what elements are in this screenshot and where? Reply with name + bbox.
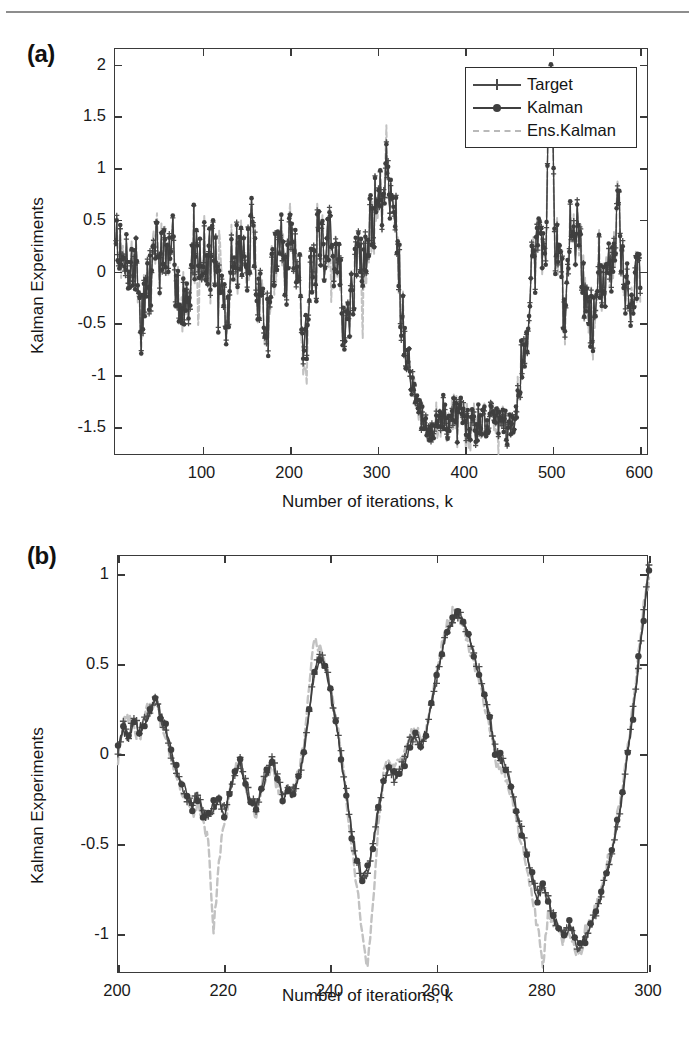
kalman-marker xyxy=(468,438,473,443)
kalman-marker xyxy=(317,657,323,663)
kalman-marker xyxy=(184,281,189,286)
kalman-marker xyxy=(535,226,540,231)
kalman-marker xyxy=(298,294,303,299)
kalman-marker xyxy=(524,852,530,858)
kalman-marker xyxy=(285,788,291,794)
kalman-marker xyxy=(478,413,483,418)
kalman-marker xyxy=(194,228,199,233)
page-top-rule xyxy=(6,11,689,13)
x-tick-top xyxy=(203,49,205,56)
x-tick-label: 500 xyxy=(538,463,566,482)
kalman-marker xyxy=(508,783,514,789)
kalman-marker xyxy=(559,275,564,280)
kalman-marker xyxy=(121,256,126,261)
kalman-marker xyxy=(543,263,548,268)
kalman-marker xyxy=(191,265,196,270)
kalman-marker xyxy=(200,814,206,820)
kalman-marker xyxy=(239,226,244,231)
kalman-marker xyxy=(217,268,222,273)
kalman-marker xyxy=(407,744,413,750)
kalman-marker xyxy=(144,294,149,299)
target-marker xyxy=(115,562,653,953)
kalman-marker xyxy=(407,346,412,351)
kalman-marker xyxy=(375,804,381,810)
kalman-marker xyxy=(564,303,569,308)
kalman-marker xyxy=(286,266,291,271)
kalman-marker xyxy=(554,253,559,258)
kalman-marker xyxy=(179,781,185,787)
kalman-marker xyxy=(340,343,345,348)
y-tick-label: 2 xyxy=(58,54,106,73)
kalman-marker xyxy=(321,242,326,247)
kalman-marker xyxy=(194,798,200,804)
kalman-marker xyxy=(533,290,538,295)
kalman-marker xyxy=(598,296,603,301)
kalman-marker xyxy=(377,203,382,208)
kalman-marker xyxy=(296,279,301,284)
kalman-marker xyxy=(618,234,623,239)
kalman-marker xyxy=(509,422,514,427)
kalman-marker xyxy=(227,325,232,330)
kalman-marker xyxy=(244,265,249,270)
kalman-marker xyxy=(117,266,122,271)
kalman-marker xyxy=(529,244,534,249)
kalman-marker xyxy=(275,267,280,272)
kalman-marker xyxy=(328,214,333,219)
kalman-marker xyxy=(213,283,218,288)
kalman-marker xyxy=(314,299,319,304)
kalman-marker xyxy=(465,414,470,419)
y-tick xyxy=(118,844,125,846)
kalman-marker xyxy=(345,317,350,322)
kalman-marker xyxy=(215,264,220,269)
kalman-marker xyxy=(128,260,133,265)
kalman-marker xyxy=(157,715,163,721)
kalman-marker xyxy=(596,270,601,275)
kalman-marker xyxy=(388,216,393,221)
y-tick-label: -1 xyxy=(58,365,106,384)
y-tick-right xyxy=(640,116,647,118)
kalman-marker xyxy=(283,293,288,298)
kalman-marker xyxy=(542,245,547,250)
kalman-marker xyxy=(188,303,193,308)
y-tick-label: -0.5 xyxy=(58,313,106,332)
kalman-marker xyxy=(189,808,195,814)
kalman-marker xyxy=(506,425,511,430)
kalman-marker xyxy=(412,730,418,736)
y-tick xyxy=(115,65,122,67)
kalman-marker xyxy=(451,396,456,401)
kalman-marker xyxy=(376,188,381,193)
kalman-marker xyxy=(216,795,222,801)
kalman-marker xyxy=(534,235,539,240)
y-tick-right xyxy=(640,220,647,222)
kalman-marker xyxy=(620,244,625,249)
kalman-marker xyxy=(625,261,630,266)
kalman-marker xyxy=(527,314,532,319)
kalman-marker xyxy=(304,313,309,318)
kalman-marker xyxy=(146,285,151,290)
kalman-marker xyxy=(503,409,508,414)
kalman-marker xyxy=(626,280,631,285)
kalman-marker xyxy=(353,236,358,241)
kalman-marker xyxy=(332,284,337,289)
kalman-marker xyxy=(416,406,421,411)
kalman-marker xyxy=(590,340,595,345)
kalman-marker xyxy=(295,265,300,270)
ens-kalman-series xyxy=(118,578,649,968)
kalman-marker xyxy=(556,925,562,931)
kalman-marker xyxy=(162,228,167,233)
kalman-marker xyxy=(544,220,549,225)
kalman-marker xyxy=(595,289,600,294)
kalman-marker xyxy=(205,253,210,258)
kalman-marker xyxy=(224,342,229,347)
kalman-marker xyxy=(485,418,490,423)
kalman-marker xyxy=(402,763,408,769)
kalman-marker xyxy=(537,219,542,224)
kalman-marker xyxy=(603,304,608,309)
kalman-marker xyxy=(528,304,533,309)
kalman-marker xyxy=(521,359,526,364)
kalman-marker xyxy=(269,252,274,257)
kalman-line-sample-icon xyxy=(473,101,521,115)
kalman-marker xyxy=(646,567,652,573)
kalman-marker xyxy=(398,325,403,330)
x-tick xyxy=(118,965,120,972)
